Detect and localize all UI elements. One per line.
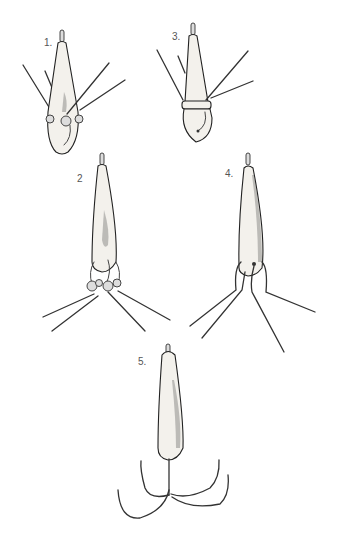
lure-figure-1 [23, 30, 125, 154]
lure-drawings [0, 0, 337, 539]
lure-figure-2 [43, 153, 170, 331]
illustration-canvas: 1. 3. 2 4. 5. [0, 0, 337, 539]
lure-figure-4 [190, 153, 315, 352]
lure-figure-3 [157, 23, 253, 142]
lure-figure-5 [118, 344, 228, 518]
